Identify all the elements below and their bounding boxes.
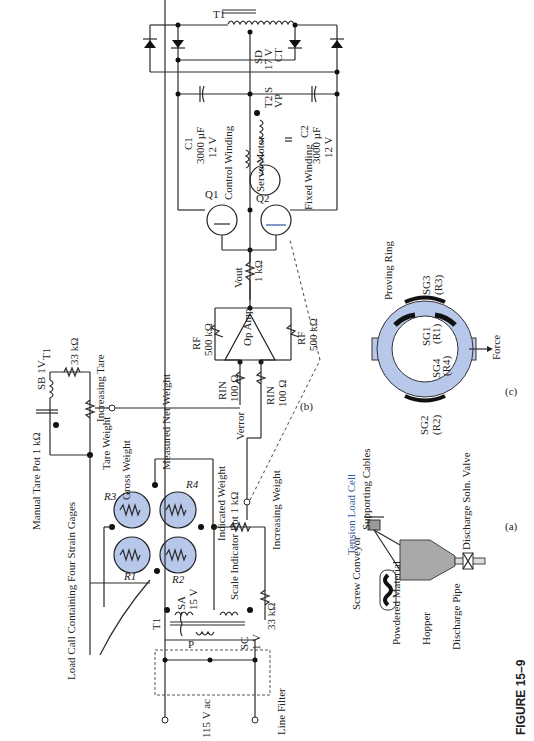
- discharge-pipe-label: Discharge Pipe: [450, 583, 462, 650]
- vout-label: Vout: [232, 267, 244, 288]
- sc-label: SC: [238, 637, 250, 650]
- panel-c-label: (c): [505, 385, 518, 398]
- tare-weight-label: Tare Weight: [100, 417, 112, 470]
- rf-bottom-label: RF: [295, 332, 307, 345]
- powdered-material-label: Powdered Material: [390, 561, 402, 645]
- sa-voltage: 15 V: [187, 588, 199, 610]
- hopper[interactable]: [400, 540, 455, 580]
- sg3-label: SG3: [420, 275, 432, 295]
- panel-a-label: (a): [505, 520, 518, 533]
- tare-resistor-label: 33 kΩ: [68, 338, 80, 365]
- hopper-label: Hopper: [420, 612, 432, 645]
- transistor-q2: [261, 205, 291, 235]
- strain-gauge-r1: [114, 537, 150, 573]
- load-cell-note: Load Call Containing Four Strain Gages: [65, 502, 77, 680]
- diode-1: [144, 40, 156, 48]
- strain-gauge-bridge: R3 R4 R1 R2 Gross Weight Measured Net We…: [65, 374, 217, 680]
- sa-label: SA: [175, 596, 187, 610]
- discharge-valve-label: Discharge Soln. Valve: [460, 452, 472, 550]
- verror-label: Verror: [234, 412, 246, 440]
- increasing-weight-label: Increasing Weight: [270, 470, 282, 550]
- rin-top-label: RIN: [216, 381, 228, 400]
- weighing-system-diagram: T1 SD 17 V CT C1 3000 µF 12 V C2 3000 µF…: [0, 0, 534, 741]
- rin-bottom-value: 100 Ω: [276, 380, 288, 407]
- sg2-r: (R2): [430, 415, 443, 436]
- scale-pot-label: Scale Indicator Pot 1 kΩ: [228, 492, 240, 600]
- diode-4: [331, 40, 343, 48]
- increasing-tare-label: Increasing Tare: [94, 354, 106, 422]
- r-1k-label: 1 kΩ: [252, 260, 264, 282]
- proving-ring-panel: SG1 (R1) SG4 (R4) SG3 (R3) SG2 (R2) Prov…: [372, 241, 518, 435]
- r1-label: R1: [123, 570, 136, 582]
- primary-label: P: [188, 638, 194, 650]
- sg4-r: (R4): [440, 356, 453, 377]
- control-winding: [246, 150, 249, 168]
- r4-label: R4: [185, 478, 199, 490]
- rin-bottom-label: RIN: [264, 386, 276, 405]
- indicated-weight-terminal[interactable]: [244, 499, 250, 505]
- proving-ring-label: Proving Ring: [382, 241, 394, 300]
- transformer-coil: [228, 21, 294, 24]
- c1-label: C1: [182, 137, 194, 150]
- q1-label: Q1: [205, 188, 218, 200]
- servo-motor-label: Servo Motor: [254, 136, 266, 192]
- rf-top-label: RF: [190, 337, 202, 350]
- screw-conveyor-label: Screw Conveyor: [350, 536, 362, 610]
- c2-label: C2: [298, 125, 310, 138]
- indicator-section: Indicated Weight Increasing Weight Scale…: [214, 240, 320, 650]
- line-filter-box: [155, 650, 270, 695]
- line-voltage-label: 115 V ac: [200, 699, 212, 738]
- c2-voltage: 12 V: [322, 136, 334, 158]
- tare-wiper-terminal[interactable]: [109, 405, 115, 411]
- force-label: Force: [490, 335, 502, 360]
- hopper-panel: Tension Load Cell Supporting Cables Disc…: [345, 448, 518, 650]
- input-secondary-coils: [175, 612, 193, 615]
- line-terminal-1[interactable]: [162, 717, 168, 723]
- fixed-winding-label: Fixed Winding: [302, 144, 314, 210]
- q2-label: Q2: [256, 192, 269, 204]
- rf-bottom-value: 500 kΩ: [307, 318, 319, 351]
- rf-top-value: 500 kΩ: [202, 323, 214, 356]
- sg2-label: SG2: [418, 415, 430, 435]
- sd-ct: CT: [272, 48, 284, 62]
- measured-net-weight-label: Measured Net Weight: [160, 374, 172, 470]
- c1-value: 3000 µF: [194, 127, 206, 164]
- sg3-r: (R3): [432, 275, 445, 296]
- indicator-resistor-label: 33 kΩ: [265, 603, 277, 630]
- line-terminal-2[interactable]: [252, 717, 258, 723]
- indicated-weight-label: Indicated Weight: [215, 466, 227, 541]
- line-filter-label: Line Filter: [275, 688, 287, 735]
- sg1-r: (R1): [430, 324, 443, 345]
- supporting-cables-label: Supporting Cables: [360, 448, 372, 530]
- manual-tare-pot-label: Manual Tare Pot 1 kΩ: [30, 432, 42, 530]
- diode-2: [172, 40, 184, 48]
- tare-sb-label: SB 1V: [35, 360, 47, 390]
- rin-top-value: 100 Ω: [228, 375, 240, 402]
- vp-label: VP: [272, 94, 284, 108]
- figure-title: FIGURE 15–9: [514, 659, 528, 735]
- input-t1-label: T1: [150, 618, 162, 630]
- r2-label: R2: [171, 573, 185, 585]
- gross-weight-label: Gross Weight: [120, 440, 132, 500]
- r3-label: R3: [103, 490, 117, 502]
- diode-3: [289, 40, 301, 48]
- servo-section: Servo Motor Control Winding Fixed Windin…: [178, 87, 337, 308]
- t1-label: T1: [213, 8, 225, 20]
- op-amp-section: Op Amp RF 500 kΩ RF 500 kΩ RIN 100 Ω RIN…: [190, 306, 319, 441]
- sc-voltage: 1 V: [250, 634, 262, 650]
- control-winding-label: Control Winding: [222, 125, 234, 200]
- panel-b-label: (b): [300, 400, 313, 413]
- c1-voltage: 12 V: [206, 136, 218, 158]
- tare-t1-label: T1: [40, 348, 52, 360]
- transistor-q1: [207, 205, 237, 235]
- op-amp-label: Op Amp: [241, 308, 253, 346]
- input-primary-coil: [196, 632, 214, 635]
